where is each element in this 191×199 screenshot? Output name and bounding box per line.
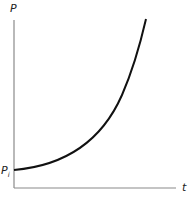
growth-curve [14,19,146,170]
initial-value-subscript: i [8,171,10,179]
initial-value-main: P [1,164,8,177]
x-axis-label: t [182,182,186,193]
growth-diagram: P t Pi [0,0,191,199]
diagram-canvas [0,0,191,199]
y-axis-label: P [10,3,17,14]
initial-value-label: Pi [1,165,10,176]
